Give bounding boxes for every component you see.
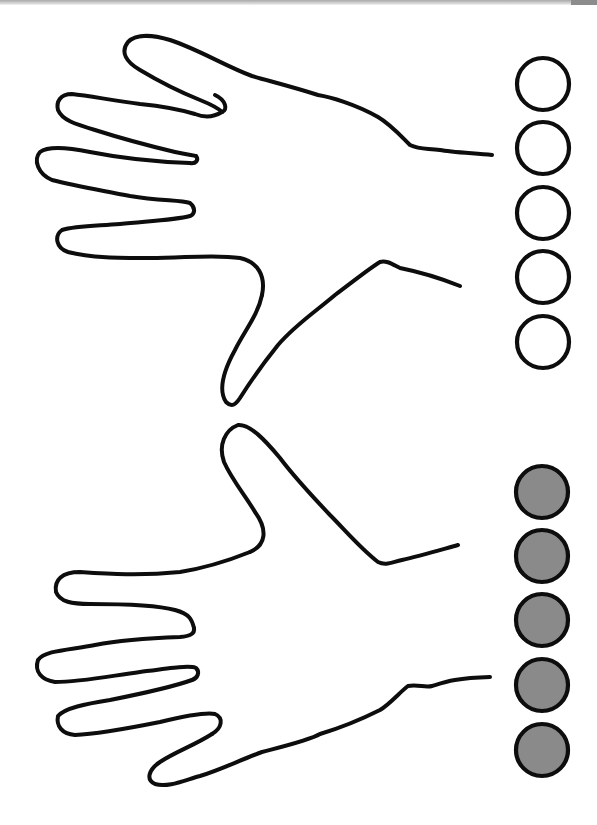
empty-circle-group <box>517 58 569 368</box>
filled-circle-3[interactable] <box>516 594 568 646</box>
bottom-hand-index-finger <box>56 552 250 628</box>
top-hand-thumb <box>222 261 460 405</box>
empty-circle-1[interactable] <box>517 58 569 110</box>
top-hand-outline <box>37 36 492 405</box>
empty-circle-3[interactable] <box>517 187 569 239</box>
empty-circle-4[interactable] <box>517 251 569 303</box>
filled-circle-4[interactable] <box>516 659 568 711</box>
filled-circle-2[interactable] <box>516 530 568 582</box>
empty-circle-2[interactable] <box>517 122 569 174</box>
bottom-hand-pinky-finger <box>149 677 490 785</box>
filled-circle-1[interactable] <box>516 466 568 518</box>
bottom-hand-thumb <box>222 425 458 564</box>
bottom-hand-outline <box>37 425 490 785</box>
worksheet-canvas <box>0 0 597 825</box>
bottom-hand-ring-finger <box>58 680 221 735</box>
top-hand-ring-finger <box>58 94 222 156</box>
bottom-hand-middle-finger <box>37 628 198 682</box>
top-hand-pinky-top-edge <box>124 36 492 155</box>
filled-circle-5[interactable] <box>516 724 568 776</box>
filled-circle-group <box>516 466 568 776</box>
top-hand-index-finger <box>57 216 263 295</box>
top-hand-middle-finger <box>37 148 197 216</box>
empty-circle-5[interactable] <box>517 316 569 368</box>
